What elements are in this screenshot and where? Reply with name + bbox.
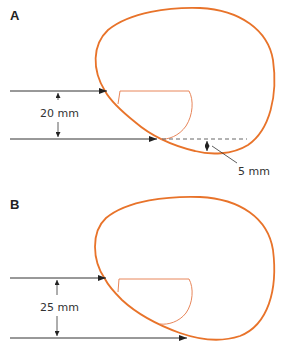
panel-b-label: B: [10, 197, 19, 212]
panel-b-outer-outline: [95, 197, 274, 340]
panel-a-distance-label: 20 mm: [40, 107, 79, 120]
panel-b: B 25 mm: [10, 197, 274, 340]
figure-diagram: A 20 mm 5 mm B 25 mm: [0, 0, 290, 355]
panel-a: A 20 mm 5 mm: [10, 8, 274, 178]
panel-a-offset-leader-line: [212, 146, 237, 163]
panel-a-outer-outline: [96, 8, 275, 154]
panel-a-label: A: [10, 8, 20, 23]
panel-a-inner-cup: [118, 91, 192, 139]
panel-b-inner-cup: [118, 279, 192, 324]
panel-b-distance-label: 25 mm: [40, 301, 79, 314]
panel-a-offset-label: 5 mm: [238, 165, 270, 178]
